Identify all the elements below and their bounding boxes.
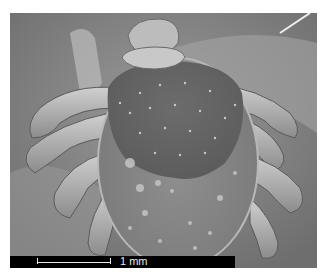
- scale-bar-strip: 1 mm: [10, 256, 235, 268]
- tick-specimen-icon: [10, 13, 317, 268]
- scale-bar-label: 1 mm: [120, 255, 148, 267]
- scale-bar-tick-left: [37, 258, 38, 264]
- scale-bar-tick-right: [110, 258, 111, 264]
- scale-bar: [37, 262, 110, 263]
- micrograph: 1 mm: [10, 13, 317, 268]
